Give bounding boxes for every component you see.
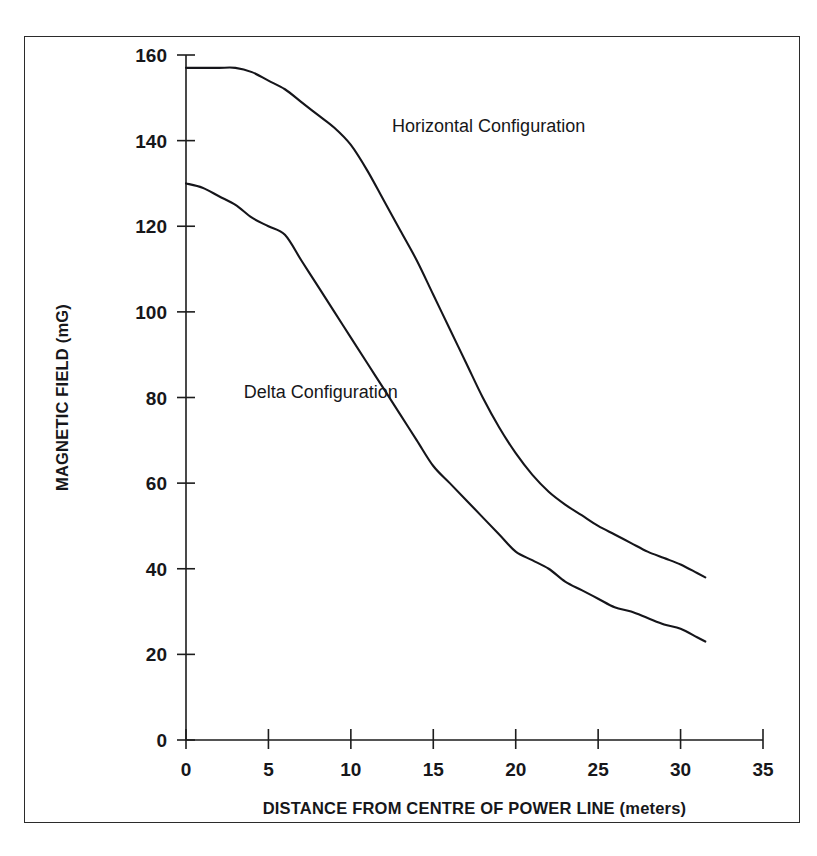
x-axis-ticks: 05101520253035	[181, 729, 774, 780]
y-tick-label: 100	[135, 302, 167, 323]
series-annotations: Horizontal ConfigurationDelta Configurat…	[244, 116, 585, 401]
x-tick-label: 30	[670, 759, 691, 780]
y-tick-label: 0	[156, 730, 167, 751]
x-tick-label: 0	[181, 759, 192, 780]
y-tick-label: 140	[135, 131, 167, 152]
x-tick-label: 5	[263, 759, 274, 780]
y-tick-label: 40	[146, 559, 167, 580]
y-tick-label: 80	[146, 388, 167, 409]
x-tick-label: 20	[505, 759, 526, 780]
y-tick-label: 20	[146, 644, 167, 665]
x-tick-label: 25	[588, 759, 610, 780]
x-tick-label: 15	[423, 759, 445, 780]
figure-container: 02040608010012014016005101520253035Horiz…	[0, 0, 817, 856]
data-series-group	[186, 68, 705, 642]
y-tick-label: 120	[135, 216, 167, 237]
y-tick-label: 60	[146, 473, 167, 494]
series-line-delta-configuration	[186, 183, 705, 641]
y-tick-label: 160	[135, 45, 167, 66]
series-label: Delta Configuration	[244, 382, 398, 402]
x-tick-label: 10	[340, 759, 361, 780]
y-axis-title: MAGNETIC FIELD (mG)	[53, 304, 71, 491]
magnetic-field-line-chart: 02040608010012014016005101520253035Horiz…	[0, 0, 817, 856]
series-label: Horizontal Configuration	[392, 116, 585, 136]
x-axis-title: DISTANCE FROM CENTRE OF POWER LINE (mete…	[263, 799, 687, 817]
x-tick-label: 35	[752, 759, 774, 780]
series-line-horizontal-configuration	[186, 68, 705, 578]
